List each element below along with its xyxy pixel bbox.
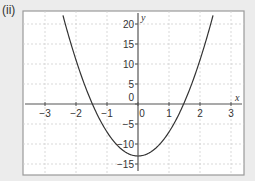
x-tick-label: 0 (139, 108, 145, 119)
y-axis-label: y (140, 12, 146, 23)
y-tick-label: 10 (123, 59, 135, 70)
x-tick-label: 1 (166, 108, 172, 119)
x-axis-label: x (234, 92, 240, 103)
y-tick-label: 20 (123, 19, 135, 30)
x-tick-label: −1 (101, 108, 113, 119)
x-tick-label: 2 (197, 108, 203, 119)
y-tick-label: −15 (117, 159, 134, 170)
y-tick-label: 15 (123, 39, 135, 50)
x-tick-label: 3 (228, 108, 234, 119)
y-tick-label: −5 (123, 119, 135, 130)
x-tick-label: −2 (70, 108, 82, 119)
chart: −3−2−10123−15−10−505101520yx (0, 0, 255, 181)
y-tick-label: 0 (128, 92, 134, 103)
x-tick-label: −3 (39, 108, 51, 119)
y-tick-label: 5 (128, 79, 134, 90)
